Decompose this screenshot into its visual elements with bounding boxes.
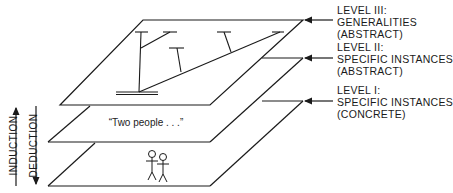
plane-level-3	[60, 20, 303, 105]
induction-label: INDUCTION	[8, 111, 19, 181]
label-level-3-line2: (ABSTRACT)	[337, 28, 417, 40]
label-level-2-line2: (ABSTRACT)	[337, 65, 453, 77]
label-level-3-title: LEVEL III:	[337, 4, 417, 16]
label-level-2-line1: SPECIFIC INSTANCES	[337, 53, 453, 65]
label-level-2-title: LEVEL II:	[337, 41, 453, 53]
label-level-3-line1: GENERALITIES	[337, 16, 417, 28]
label-level-1-line1: SPECIFIC INSTANCES	[337, 96, 453, 108]
label-level-1: LEVEL I: SPECIFIC INSTANCES (CONCRETE)	[337, 84, 453, 120]
middle-plane-quote: “Two people . . .”	[100, 117, 192, 128]
label-level-3: LEVEL III: GENERALITIES (ABSTRACT)	[337, 4, 417, 40]
label-level-1-line2: (CONCRETE)	[337, 108, 453, 120]
label-level-1-title: LEVEL I:	[337, 84, 453, 96]
deduction-label: DEDUCTION	[28, 111, 39, 181]
label-level-2: LEVEL II: SPECIFIC INSTANCES (ABSTRACT)	[337, 41, 453, 77]
